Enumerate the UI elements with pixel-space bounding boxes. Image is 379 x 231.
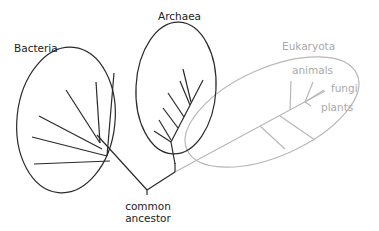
bacteria-branch [96,82,100,143]
common-ancestor-line2: ancestor [118,212,178,224]
archaea-trunk [171,142,175,164]
bacteria-ellipse [10,42,123,197]
plants-label: plants [321,101,353,113]
bacteria-branch [39,116,102,149]
bacteria-branch [107,73,114,156]
bacteria-label: Bacteria [14,42,58,54]
eukaryota-branch-animals [290,81,291,110]
eukaryota-label: Eukaryota [282,40,335,52]
bacteria-branch [34,161,110,164]
archaea-branch [168,93,184,117]
eukaryota-branch [280,116,315,140]
root-group [147,163,175,195]
tree-diagram [0,0,379,231]
eukaryota-branch [260,126,285,149]
archaea-label: Archaea [158,10,201,22]
common-ancestor-line1: common [118,200,178,212]
bacteria-branch [66,90,100,143]
archaea-branch [163,108,178,128]
fungi-label: fungi [331,82,358,94]
archaea-branch [159,120,171,140]
bacteria-trunk [97,135,147,190]
root-right-branch [147,172,175,190]
common-ancestor-label: common ancestor [118,200,178,224]
animals-label: animals [292,64,333,76]
archaea-group [133,20,220,164]
eukaryota-branch-plants [305,102,311,106]
bacteria-branch [32,137,107,156]
bacteria-group [10,42,147,197]
archaea-ellipse [133,20,220,156]
